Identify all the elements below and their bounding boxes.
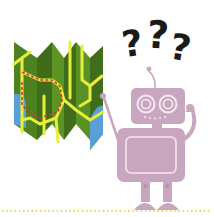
- question-mark-2: ?: [146, 15, 171, 54]
- folded-map-icon: [14, 42, 103, 150]
- illustration-scene: ? ? ? Confused robot holding a folded ma…: [0, 0, 214, 217]
- robot-icon: [100, 67, 195, 210]
